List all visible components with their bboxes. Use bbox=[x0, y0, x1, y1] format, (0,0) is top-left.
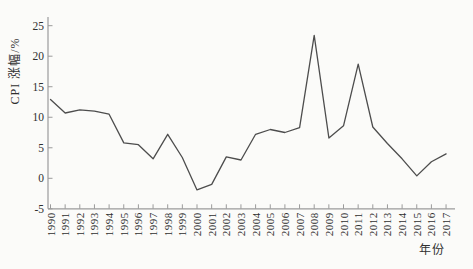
y-tick-label: 25 bbox=[33, 20, 45, 32]
x-tick-label: 2014 bbox=[396, 212, 408, 236]
x-tick-label: 1999 bbox=[176, 212, 188, 236]
x-tick-label: 2015 bbox=[411, 212, 423, 236]
x-tick-label: 1994 bbox=[103, 212, 115, 236]
x-tick-label: 2012 bbox=[367, 212, 379, 236]
y-tick-label: 20 bbox=[33, 50, 45, 62]
y-tick-label: 0 bbox=[38, 172, 44, 184]
x-tick-label: 1991 bbox=[59, 212, 71, 236]
x-tick-label: 1997 bbox=[147, 212, 159, 236]
x-tick-label: 2000 bbox=[191, 212, 203, 236]
x-tick-label: 1998 bbox=[162, 212, 174, 236]
x-axis-title: 年份 bbox=[419, 243, 445, 257]
x-tick-label: 2007 bbox=[294, 212, 306, 236]
x-tick-label: 1993 bbox=[88, 212, 100, 236]
x-tick-label: 2006 bbox=[279, 212, 291, 236]
chart-canvas: -505101520251990199119921993199419951996… bbox=[0, 0, 473, 269]
x-tick-label: 2008 bbox=[308, 212, 320, 236]
x-tick-label: 1995 bbox=[118, 212, 130, 236]
x-tick-label: 2013 bbox=[381, 212, 393, 236]
x-tick-label: 2011 bbox=[352, 212, 364, 236]
axes-layer: -505101520251990199119921993199419951996… bbox=[33, 17, 456, 236]
x-tick-label: 2017 bbox=[440, 212, 452, 236]
x-tick-label: 2002 bbox=[220, 212, 232, 236]
x-tick-label: 2001 bbox=[206, 212, 218, 236]
y-tick-label: 10 bbox=[33, 111, 45, 123]
series-layer bbox=[51, 35, 447, 190]
x-tick-label: 2003 bbox=[235, 212, 247, 236]
x-tick-label: 2005 bbox=[264, 212, 276, 236]
x-tick-label: 2004 bbox=[250, 212, 262, 236]
y-tick-label: 5 bbox=[38, 142, 44, 154]
x-tick-label: 1996 bbox=[132, 212, 144, 236]
y-axis-title: CPI 涨幅/% bbox=[7, 37, 22, 104]
x-tick-label: 2009 bbox=[323, 212, 335, 236]
y-tick-label: -5 bbox=[34, 203, 44, 215]
x-tick-label: 1992 bbox=[74, 212, 86, 236]
x-tick-label: 1990 bbox=[45, 212, 57, 236]
x-tick-label: 2016 bbox=[425, 212, 437, 236]
x-tick-label: 2010 bbox=[338, 212, 350, 236]
cpi-line bbox=[51, 35, 447, 190]
cpi-trend-figure: -505101520251990199119921993199419951996… bbox=[0, 0, 473, 269]
y-tick-label: 15 bbox=[33, 81, 45, 93]
